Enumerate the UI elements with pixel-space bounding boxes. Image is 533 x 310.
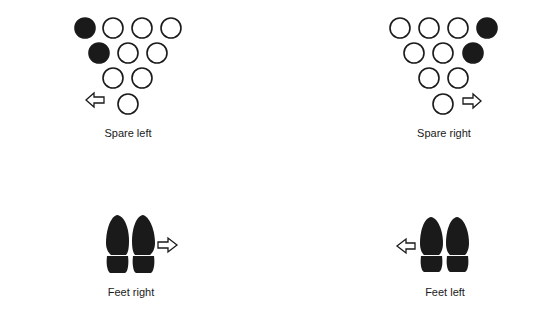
- shoeprint-icon: [446, 217, 469, 272]
- pin-empty: [433, 94, 453, 114]
- right-arrow-icon: [463, 94, 481, 108]
- caption-spare-right: Spare right: [417, 127, 471, 139]
- pin-empty: [390, 18, 410, 38]
- pin-filled: [477, 18, 497, 38]
- pin-filled: [463, 43, 483, 63]
- pin-empty: [404, 43, 424, 63]
- panel-spare-right: Spare right: [0, 0, 533, 155]
- pin-empty: [433, 43, 453, 63]
- panel-feet-left: Feet left: [0, 155, 533, 310]
- pin-empty: [419, 68, 439, 88]
- pin-empty: [448, 68, 468, 88]
- pin-empty: [419, 18, 439, 38]
- caption-feet-left: Feet left: [425, 286, 465, 298]
- shoeprint-icon: [420, 217, 443, 272]
- pin-empty: [448, 18, 468, 38]
- left-arrow-icon: [397, 239, 415, 253]
